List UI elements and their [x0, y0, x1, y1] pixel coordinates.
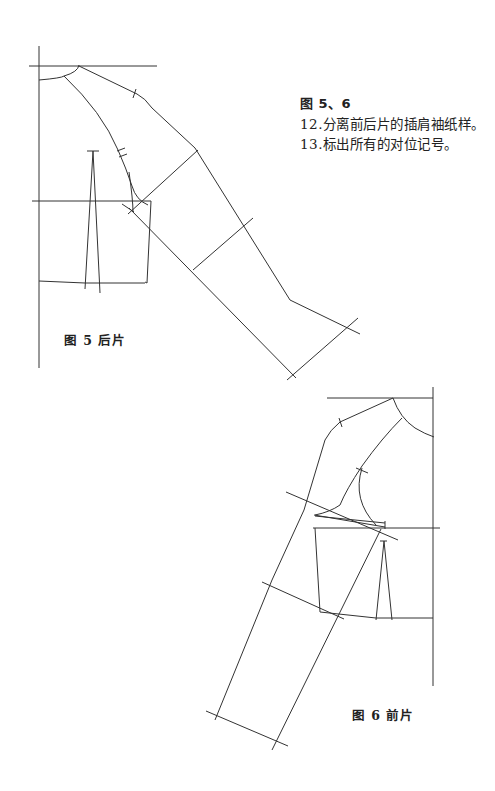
note-item-12: 12.分离前后片的插肩袖纸样。: [300, 114, 485, 134]
note-item-13: 13.标出所有的对位记号。: [300, 134, 485, 154]
instruction-notes: 图 5、6 12.分离前后片的插肩袖纸样。 13.标出所有的对位记号。: [300, 94, 485, 154]
figure-6-front-piece: [206, 387, 440, 750]
notes-title: 图 5、6: [300, 94, 485, 114]
figure-6-caption: 图 6 前片: [352, 705, 414, 724]
figure-5-caption: 图 5 后片: [64, 330, 126, 349]
